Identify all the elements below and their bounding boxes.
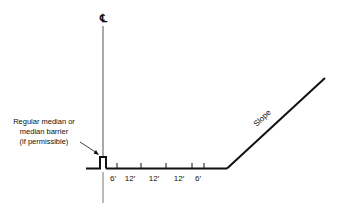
median-label-line-2: median barrier [20,127,69,136]
arrow-head-icon [94,150,100,155]
median-barrier [86,157,106,169]
dimension-shoulder-left: 6′ [110,174,116,183]
centerline-symbol: ℄ [99,12,108,24]
median-annotation: Regular median or median barrier (if per… [13,117,99,155]
median-leader-arrow [80,142,97,153]
lane-ticks [117,163,204,168]
roadway-cross-section-diagram: ℄ Slope 6′ 12′ 12′ 12′ 6′ Regular median… [0,0,337,213]
median-label-line-1: Regular median or [13,117,75,126]
dimension-lane-3: 12′ [174,174,185,183]
lane-dimensions: 6′ 12′ 12′ 12′ 6′ [110,174,201,183]
median-label-line-3: (if permissible) [20,137,69,146]
dimension-lane-2: 12′ [149,174,160,183]
slope-label: Slope [252,108,274,129]
slope-line [227,78,325,169]
dimension-shoulder-right: 6′ [195,174,201,183]
dimension-lane-1: 12′ [125,174,136,183]
